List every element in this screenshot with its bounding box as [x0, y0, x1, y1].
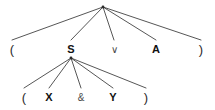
tree-edge — [71, 58, 113, 88]
tree-edge — [24, 58, 71, 88]
tree-leaf-upper-leaf-1: ( — [10, 44, 14, 55]
tree-leaf-lower-leaf-3: & — [78, 92, 85, 103]
tree-root-nodes — [70, 6, 105, 60]
upper-tree-edges — [12, 7, 201, 40]
tree-leaf-upper-leaf-3: ∨ — [111, 44, 118, 55]
tree-leaf-upper-leaf-4: A — [152, 44, 160, 55]
syntax-tree-diagram: (S∨A)(X&Y) — [0, 0, 215, 110]
tree-leaf-upper-leaf-5: ) — [199, 44, 203, 55]
tree-leaf-lower-leaf-1: ( — [22, 92, 26, 103]
tree-edge — [71, 58, 81, 88]
tree-edge — [12, 7, 103, 40]
tree-edge — [71, 7, 103, 40]
tree-edges-canvas — [0, 0, 215, 110]
tree-edge — [103, 7, 156, 40]
tree-edge — [71, 58, 146, 88]
tree-edge — [49, 58, 71, 88]
tree-root-node-upper-tree — [102, 6, 105, 9]
tree-edge — [103, 7, 201, 40]
lower-tree-edges — [24, 58, 146, 88]
tree-leaf-lower-leaf-5: ) — [144, 92, 148, 103]
tree-edge — [103, 7, 114, 40]
tree-leaf-lower-leaf-4: Y — [109, 92, 116, 103]
tree-leaf-upper-leaf-2: S — [67, 44, 74, 55]
tree-leaf-lower-leaf-2: X — [45, 92, 52, 103]
tree-root-node-lower-tree — [70, 57, 73, 60]
